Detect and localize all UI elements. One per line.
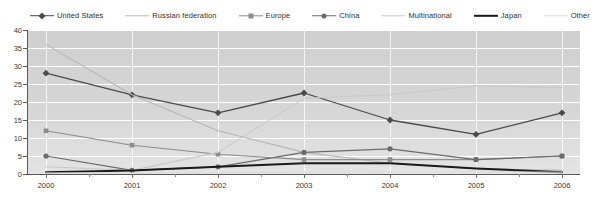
legend-swatch-icon: [30, 11, 54, 20]
data-point-marker: [387, 146, 392, 151]
plot-area: [28, 30, 580, 174]
legend-swatch-icon: [381, 11, 405, 20]
chart-title: Number of nuclear events: [0, 0, 600, 2]
x-axis-tick-label: 2001: [112, 181, 152, 190]
legend-item-china[interactable]: China: [312, 11, 359, 20]
series-line-japan: [46, 163, 562, 172]
legend-swatch-icon: [544, 11, 568, 20]
legend-swatch-icon: [239, 11, 263, 20]
y-axis-tick-label: 5: [2, 152, 22, 161]
y-axis-tick-label: 20: [2, 98, 22, 107]
legend-marker-square-icon: [248, 13, 253, 18]
data-point-marker: [43, 70, 50, 77]
data-point-marker: [387, 117, 394, 124]
legend-item-multinational[interactable]: Multinational: [381, 11, 451, 20]
legend-item-japan[interactable]: Japan: [474, 11, 522, 20]
legend-label: United States: [57, 11, 103, 20]
y-axis-tick-label: 40: [2, 26, 22, 35]
data-point-marker: [559, 109, 566, 116]
data-point-marker: [301, 90, 308, 97]
legend-item-other[interactable]: Other: [544, 11, 590, 20]
legend-swatch-icon: [474, 11, 498, 20]
legend-label: Other: [571, 11, 590, 20]
y-axis-tick-label: 10: [2, 134, 22, 143]
y-axis-tick-label: 15: [2, 116, 22, 125]
data-point-marker: [43, 153, 48, 158]
y-axis: [27, 30, 28, 175]
legend-item-russian-federation[interactable]: Russian federation: [125, 11, 216, 20]
x-axis: [27, 174, 580, 175]
series-line-united-states: [46, 73, 562, 134]
legend-marker-circle-icon: [322, 13, 327, 18]
legend-swatch-icon: [312, 11, 336, 20]
x-axis-tick-label: 2003: [284, 181, 324, 190]
legend-item-europe[interactable]: Europe: [239, 11, 291, 20]
legend-item-united-states[interactable]: United States: [30, 11, 103, 20]
y-axis-tick-label: 0: [2, 170, 22, 179]
legend-marker-diamond-icon: [38, 12, 45, 19]
data-point-marker: [559, 153, 564, 158]
line-chart: Number of nuclear events United StatesRu…: [0, 0, 600, 197]
data-point-marker: [215, 109, 222, 116]
series-lines: [28, 30, 580, 174]
y-axis-tick-label: 25: [2, 80, 22, 89]
x-axis-tick-label: 2004: [370, 181, 410, 190]
y-axis-tick-label: 35: [2, 44, 22, 53]
legend-label: Japan: [501, 11, 522, 20]
legend-swatch-icon: [125, 11, 149, 20]
data-point-marker: [388, 157, 393, 162]
series-line-europe: [46, 131, 562, 160]
x-axis-tick-label: 2002: [198, 181, 238, 190]
legend-label: China: [339, 11, 359, 20]
x-axis-tick-label: 2000: [26, 181, 66, 190]
legend-label: Europe: [266, 11, 291, 20]
data-point-marker: [302, 157, 307, 162]
x-axis-tick-label: 2005: [456, 181, 496, 190]
series-line-other: [46, 172, 562, 173]
data-point-marker: [130, 143, 135, 148]
legend-label: Russian federation: [152, 11, 216, 20]
data-point-marker: [44, 129, 49, 134]
data-point-marker: [473, 131, 480, 138]
data-point-marker: [301, 150, 306, 155]
x-axis-tick-label: 2006: [542, 181, 582, 190]
y-axis-tick-label: 30: [2, 62, 22, 71]
chart-legend: United StatesRussian federationEuropeChi…: [30, 8, 590, 23]
data-point-marker: [473, 157, 478, 162]
legend-label: Multinational: [408, 11, 451, 20]
